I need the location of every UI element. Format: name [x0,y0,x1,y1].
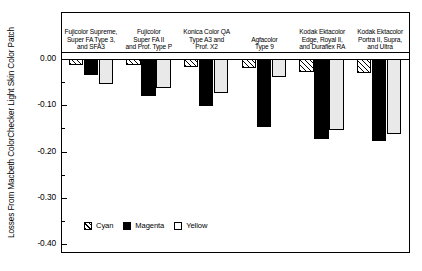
category-label-line: Edge, Royal II, [302,36,343,44]
bar-yellow-4 [329,59,344,130]
category-label-line: Type 9 [255,43,274,51]
bar-cyan-5 [357,59,372,73]
bar-yellow-0 [99,59,114,84]
bar-cyan-4 [299,59,314,72]
category-label-line: Super FA II [133,36,164,44]
bar-cyan-3 [242,59,257,68]
category-label-line: Fujicolor [137,28,161,36]
category-label-line: Fujicolor Supreme, [65,28,118,36]
y-tick-label: 0.00 [26,54,56,62]
y-tick-label: -0.30 [26,193,56,201]
legend-item-cyan: Cyan [84,221,113,230]
bar-magenta-3 [257,59,272,127]
legend-label: Cyan [96,221,113,230]
category-label-5: Kodak EktacolorPortra II, Supra,and Ultr… [351,13,409,52]
plot-canvas: CyanMagentaYellow [62,53,409,252]
y-tick-label: -0.10 [26,100,56,108]
category-label-line: and SFA3 [77,43,105,51]
y-tick-label: -0.20 [26,147,56,155]
legend-swatch-cyan-icon [84,222,92,230]
y-axis-tick-labels: 0.00-0.10-0.20-0.30-0.40 [18,0,56,271]
legend-item-yellow: Yellow [174,221,207,230]
plot-area: Fujicolor Supreme,Super FA Type 3,and SF… [61,12,410,253]
bar-magenta-5 [372,59,387,141]
category-label-3: AgfacolorType 9 [235,13,293,52]
category-label-line: Kodak Ektacolor [299,28,345,36]
category-header-band: Fujicolor Supreme,Super FA Type 3,and SF… [62,13,409,53]
bar-chart-figure: Losses From Macbeth ColorChecker Light S… [0,0,422,271]
category-label-line: Agfacolor [251,36,278,44]
category-label-4: Kodak EktacolorEdge, Royal II,and Durafl… [293,13,351,52]
bar-yellow-1 [156,59,171,88]
category-label-1: FujicolorSuper FA IIand Prof. Type P [120,13,178,52]
category-label-line: Konica Color QA [183,28,230,36]
legend-swatch-magenta-icon [123,222,131,230]
y-axis-title: Losses From Macbeth ColorChecker Light S… [7,19,16,247]
category-label-line: Super FA Type 3, [67,36,115,44]
bar-group-4 [293,53,351,252]
bar-group-5 [350,53,408,252]
legend-label: Yellow [186,221,207,230]
bar-magenta-1 [141,59,156,96]
y-tick-label: -0.40 [26,239,56,247]
bar-yellow-2 [214,59,229,93]
category-label-line: and Duraflex RA [299,43,345,51]
bar-group-3 [235,53,293,252]
category-label-0: Fujicolor Supreme,Super FA Type 3,and SF… [62,13,120,52]
category-label-2: Konica Color QAType A3 andProf. X2 [178,13,236,52]
bar-cyan-0 [69,59,84,65]
legend-swatch-yellow-icon [174,222,182,230]
bar-yellow-3 [272,59,287,77]
category-label-line: Type A3 and [189,36,224,44]
bar-magenta-2 [199,59,214,106]
category-label-line: and Ultra [367,43,392,51]
legend-label: Magenta [135,221,164,230]
bar-yellow-5 [387,59,402,134]
bar-cyan-2 [184,59,199,67]
bar-cyan-1 [126,59,141,65]
category-label-line: Kodak Ektacolor [357,28,403,36]
category-label-line: Portra II, Supra, [358,36,402,44]
bar-magenta-4 [314,59,329,139]
bar-magenta-0 [84,59,99,75]
legend-item-magenta: Magenta [123,221,164,230]
legend: CyanMagentaYellow [84,221,207,230]
y-axis-title-container: Losses From Macbeth ColorChecker Light S… [0,0,16,271]
category-label-line: and Prof. Type P [125,43,172,51]
category-label-line: Prof. X2 [195,43,218,51]
